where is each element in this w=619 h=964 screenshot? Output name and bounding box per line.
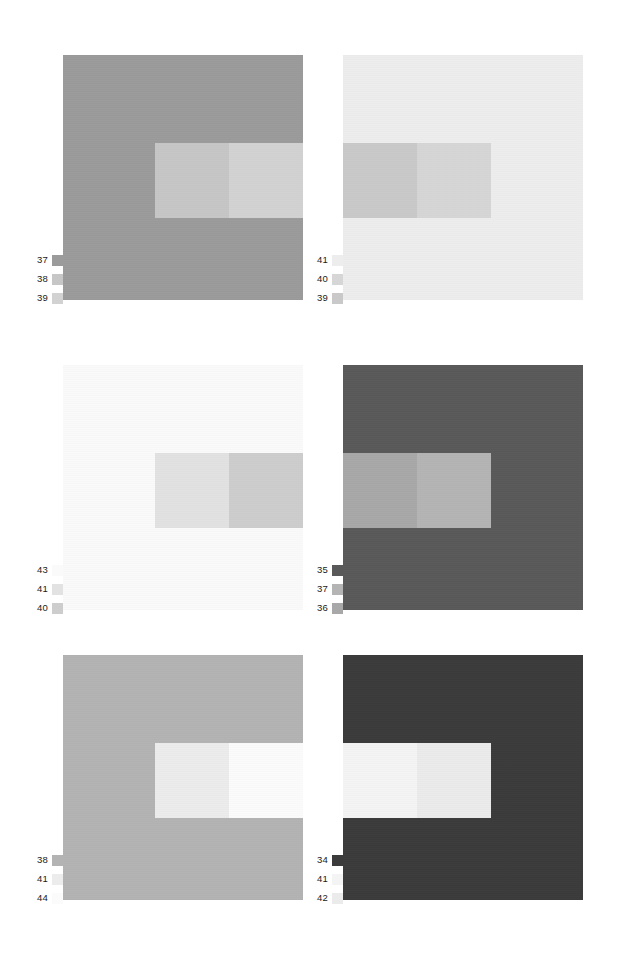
legend-item-label: 36 <box>309 603 332 613</box>
panel-bottom-left: 384144 <box>20 640 299 950</box>
legend-item-swatch <box>332 855 343 866</box>
legend-item-label: 40 <box>29 603 52 613</box>
legend-item-swatch <box>52 565 63 576</box>
panel-top-left-inner-rect-left-half <box>155 143 229 218</box>
panel-bottom-left-inner-rect-right-half <box>229 743 303 818</box>
legend-item-label: 37 <box>29 255 52 265</box>
legend-item-label: 38 <box>29 855 52 865</box>
panel-middle-right-inner-rect-right-half <box>417 453 491 528</box>
panel-middle-left-inner-rect <box>155 453 303 528</box>
legend-item-label: 39 <box>309 293 332 303</box>
panel-top-right: 414039 <box>300 40 579 350</box>
panel-middle-right-image <box>343 365 583 610</box>
legend-item-swatch <box>52 584 63 595</box>
legend-item-swatch <box>332 584 343 595</box>
panel-top-left-legend: 373839 <box>29 252 63 309</box>
legend-item-swatch <box>332 565 343 576</box>
panel-middle-left-inner-rect-right-half <box>229 453 303 528</box>
legend-item-label: 44 <box>29 893 52 903</box>
panel-bottom-right-legend: 344142 <box>309 852 343 909</box>
legend-item: 41 <box>29 581 63 597</box>
panel-bottom-right-inner-rect-left-half <box>343 743 417 818</box>
panel-bottom-left-inner-rect-left-half <box>155 743 229 818</box>
panel-bottom-right-inner-rect <box>343 743 491 818</box>
legend-item: 38 <box>29 271 63 287</box>
legend-item-label: 39 <box>29 293 52 303</box>
legend-item-label: 35 <box>309 565 332 575</box>
legend-item-label: 41 <box>309 255 332 265</box>
legend-item: 41 <box>309 871 343 887</box>
panel-middle-right: 353736 <box>300 350 579 660</box>
legend-item-swatch <box>52 874 63 885</box>
legend-item: 42 <box>309 890 343 906</box>
panel-bottom-left-image <box>63 655 303 900</box>
legend-item-swatch <box>332 874 343 885</box>
panel-top-left-inner-rect-right-half <box>229 143 303 218</box>
panel-middle-right-inner-rect-left-half <box>343 453 417 528</box>
panel-middle-left-inner-rect-left-half <box>155 453 229 528</box>
legend-item-swatch <box>52 603 63 614</box>
panel-bottom-right-image <box>343 655 583 900</box>
panel-top-right-inner-rect <box>343 143 491 218</box>
legend-item: 34 <box>309 852 343 868</box>
legend-item: 44 <box>29 890 63 906</box>
legend-item-label: 38 <box>29 274 52 284</box>
panel-top-left-inner-rect <box>155 143 303 218</box>
legend-item-label: 42 <box>309 893 332 903</box>
panel-middle-left-image <box>63 365 303 610</box>
figure-grid: 373839414039434140353736384144344142 <box>0 0 619 964</box>
legend-item-swatch <box>332 255 343 266</box>
panel-middle-left-legend: 434140 <box>29 562 63 619</box>
legend-item-label: 41 <box>29 874 52 884</box>
legend-item: 40 <box>29 600 63 616</box>
legend-item: 39 <box>309 290 343 306</box>
legend-item: 37 <box>309 581 343 597</box>
legend-item-swatch <box>332 274 343 285</box>
panel-bottom-left-legend: 384144 <box>29 852 63 909</box>
legend-item-label: 41 <box>309 874 332 884</box>
panel-top-right-inner-rect-right-half <box>417 143 491 218</box>
legend-item-swatch <box>332 603 343 614</box>
legend-item-swatch <box>332 293 343 304</box>
panel-top-left: 373839 <box>20 40 299 350</box>
legend-item-label: 34 <box>309 855 332 865</box>
legend-item: 36 <box>309 600 343 616</box>
panel-bottom-left-inner-rect <box>155 743 303 818</box>
legend-item: 38 <box>29 852 63 868</box>
legend-item-label: 41 <box>29 584 52 594</box>
panel-middle-right-legend: 353736 <box>309 562 343 619</box>
legend-item: 41 <box>29 871 63 887</box>
legend-item: 40 <box>309 271 343 287</box>
panel-top-right-legend: 414039 <box>309 252 343 309</box>
panel-middle-left: 434140 <box>20 350 299 660</box>
panel-top-right-inner-rect-left-half <box>343 143 417 218</box>
panel-top-right-image <box>343 55 583 300</box>
legend-item: 41 <box>309 252 343 268</box>
panel-top-left-image <box>63 55 303 300</box>
legend-item-swatch <box>52 893 63 904</box>
legend-item-swatch <box>52 274 63 285</box>
panel-bottom-right-inner-rect-right-half <box>417 743 491 818</box>
legend-item-swatch <box>332 893 343 904</box>
legend-item: 37 <box>29 252 63 268</box>
legend-item-label: 43 <box>29 565 52 575</box>
legend-item: 43 <box>29 562 63 578</box>
legend-item-label: 37 <box>309 584 332 594</box>
legend-item: 35 <box>309 562 343 578</box>
legend-item-swatch <box>52 255 63 266</box>
legend-item-swatch <box>52 293 63 304</box>
panel-middle-right-inner-rect <box>343 453 491 528</box>
legend-item-label: 40 <box>309 274 332 284</box>
legend-item: 39 <box>29 290 63 306</box>
panel-bottom-right: 344142 <box>300 640 579 950</box>
legend-item-swatch <box>52 855 63 866</box>
